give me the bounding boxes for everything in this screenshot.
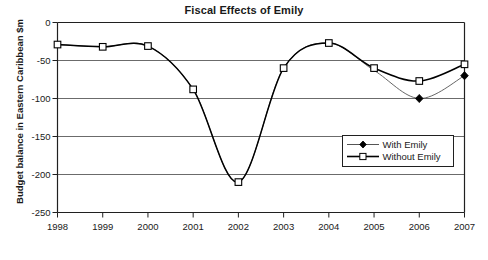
- x-tick-label: 2000: [127, 221, 169, 232]
- x-tick-label: 2002: [217, 221, 259, 232]
- legend-swatch-square-icon: [347, 151, 379, 162]
- chart-figure: Fiscal Effects of Emily Budget balance i…: [0, 0, 488, 260]
- y-tick-label: 0: [11, 18, 51, 28]
- legend-swatch-diamond-icon: [347, 139, 379, 150]
- y-tick-label: -200: [11, 170, 51, 180]
- y-tick-marks-group: [53, 23, 58, 213]
- legend-label-without-emily: Without Emily: [383, 151, 441, 162]
- x-tick-label: 2003: [263, 221, 305, 232]
- x-tick-label: 1998: [37, 221, 79, 232]
- y-tick-label: -50: [11, 56, 51, 66]
- y-tick-label: -100: [11, 94, 51, 104]
- x-tick-marks-group: [58, 213, 465, 218]
- y-tick-label: -150: [11, 132, 51, 142]
- axis-frame-group: [58, 23, 465, 213]
- x-tick-label: 2006: [398, 221, 440, 232]
- legend-item-without-emily: Without Emily: [347, 151, 448, 163]
- x-tick-label: 1999: [82, 221, 124, 232]
- legend-item-with-emily: With Emily: [347, 139, 448, 151]
- x-tick-label: 2005: [353, 221, 395, 232]
- legend: With Emily Without Emily: [342, 135, 454, 167]
- x-tick-label: 2007: [444, 221, 486, 232]
- x-tick-label: 2004: [308, 221, 350, 232]
- y-tick-label: -250: [11, 208, 51, 218]
- gridlines-group: [58, 23, 465, 213]
- x-tick-label: 2001: [172, 221, 214, 232]
- legend-label-with-emily: With Emily: [383, 139, 428, 150]
